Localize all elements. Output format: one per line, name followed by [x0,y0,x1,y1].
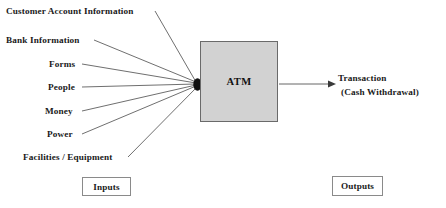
input-label-facilities-equipment: Facilities / Equipment [23,152,113,162]
input-label-customer-account-information: Customer Account Information [6,6,134,16]
process-box-label: ATM [227,76,252,87]
input-connector-people [82,84,196,87]
process-box-atm: ATM [200,41,278,122]
output-label-transaction: Transaction (Cash Withdrawal) [338,72,419,99]
input-label-bank-information: Bank Information [6,35,80,45]
input-label-forms: Forms [49,59,75,69]
input-connector-forms [82,64,196,83]
input-label-people: People [48,82,75,92]
input-label-power: Power [47,129,73,139]
legend-box-inputs: Inputs [82,177,131,196]
input-label-money: Money [45,106,73,116]
output-label-line-2: (Cash Withdrawal) [338,86,419,100]
input-connector-power [82,86,196,134]
input-connector-facilities-equipment [128,87,197,157]
input-connector-bank-information [94,40,196,82]
input-connector-customer-account-information [155,11,196,82]
input-connector-money [82,85,196,111]
legend-box-outputs: Outputs [332,176,383,196]
output-arrowhead [328,81,336,88]
output-label-line-1: Transaction [338,73,386,83]
ipo-diagram-canvas: Customer Account Information Bank Inform… [0,0,446,208]
